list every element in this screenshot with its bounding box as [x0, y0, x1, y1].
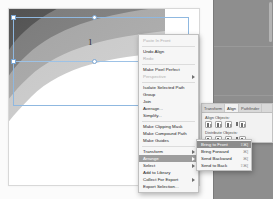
align-objects-buttons	[202, 120, 272, 128]
submenu-item-send-to-back[interactable]: Send to Back ⇧⌘[	[197, 162, 251, 169]
align-panel-tabs: Transform Align Pathfinder	[202, 104, 272, 113]
submenu-item-shortcut: ⌘]	[243, 148, 248, 155]
chevron-right-icon	[192, 150, 195, 154]
chevron-right-icon	[192, 75, 195, 79]
align-top-icon[interactable]	[239, 121, 246, 128]
chevron-right-icon	[192, 157, 195, 161]
tab-align[interactable]: Align	[225, 104, 239, 112]
menu-item-label: Make Clipping Mask	[143, 124, 183, 129]
menu-separator	[142, 64, 195, 65]
menu-item-isolate-selected-path[interactable]: Isolate Selected Path	[139, 84, 198, 91]
chevron-right-icon	[192, 178, 195, 182]
menu-item-label: Collect For Export	[143, 177, 178, 182]
arrange-submenu[interactable]: Bring to Front ⇧⌘] Bring Forward ⌘] Send…	[196, 139, 252, 171]
tab-transform[interactable]: Transform	[202, 104, 225, 112]
menu-item-label: Simplify...	[143, 113, 162, 118]
menu-item-arrange[interactable]: Arrange	[139, 155, 198, 162]
document-number-marker: 1	[88, 38, 93, 47]
selection-handle-mid-middle[interactable]	[92, 59, 97, 64]
tab-pathfinder[interactable]: Pathfinder	[239, 104, 262, 112]
panel-scrollbar[interactable]	[269, 2, 272, 42]
submenu-item-label: Bring to Front	[201, 141, 228, 148]
menu-item-export-selection[interactable]: Export Selection...	[139, 183, 198, 190]
menu-item-transform[interactable]: Transform	[139, 148, 198, 155]
align-objects-label: Align Objects:	[202, 113, 272, 120]
align-panel[interactable]: Transform Align Pathfinder Align Objects…	[201, 103, 273, 143]
selection-handle-top-left[interactable]	[11, 15, 16, 20]
submenu-item-shortcut: ⌘[	[243, 155, 248, 162]
distribute-objects-label: Distribute Objects:	[202, 128, 272, 135]
align-center-horizontal-icon[interactable]	[215, 121, 222, 128]
menu-separator	[142, 146, 195, 147]
submenu-item-send-backward[interactable]: Send Backward ⌘[	[197, 155, 251, 162]
menu-item-label: Paste In Front	[143, 38, 171, 43]
menu-item-label: Undo Align	[143, 49, 164, 54]
selection-handle-mid-left[interactable]	[11, 59, 16, 64]
menu-item-join[interactable]: Join	[139, 98, 198, 105]
menu-separator	[142, 46, 195, 47]
submenu-item-label: Bring Forward	[201, 148, 229, 155]
menu-item-make-clipping-mask[interactable]: Make Clipping Mask	[139, 123, 198, 130]
menu-item-label: Select	[143, 163, 155, 168]
align-left-icon[interactable]	[205, 121, 212, 128]
submenu-item-bring-forward[interactable]: Bring Forward ⌘]	[197, 148, 251, 155]
menu-item-label: Group	[143, 92, 155, 97]
menu-item-simplify[interactable]: Simplify...	[139, 112, 198, 119]
menu-item-label: Arrange	[143, 156, 159, 161]
menu-item-make-compound-path[interactable]: Make Compound Path	[139, 130, 198, 137]
menu-item-label: Isolate Selected Path	[143, 85, 185, 90]
menu-item-add-to-library[interactable]: Add to Library	[139, 169, 198, 176]
context-menu[interactable]: Paste In Front Undo Align Redo Make Pixe…	[138, 34, 199, 193]
submenu-item-bring-to-front[interactable]: Bring to Front ⇧⌘]	[197, 141, 251, 148]
menu-item-make-pixel-perfect[interactable]: Make Pixel Perfect	[139, 66, 198, 73]
menu-item-label: Perspective	[143, 74, 166, 79]
menu-item-collect-for-export[interactable]: Collect For Export	[139, 176, 198, 183]
menu-item-label: Join	[143, 99, 151, 104]
align-divider	[235, 121, 236, 128]
menu-item-perspective[interactable]: Perspective	[139, 73, 198, 80]
submenu-item-shortcut: ⇧⌘[	[240, 162, 248, 169]
chevron-right-icon	[192, 164, 195, 168]
illustrator-window: 1 Transform Align Pathfinder Align Objec…	[0, 0, 273, 199]
menu-item-label: Average...	[143, 106, 163, 111]
submenu-item-shortcut: ⇧⌘]	[240, 141, 248, 148]
menu-item-make-guides[interactable]: Make Guides	[139, 137, 198, 144]
submenu-item-label: Send Backward	[201, 155, 232, 162]
menu-item-label: Redo	[143, 56, 154, 61]
menu-item-label: Transform	[143, 149, 163, 154]
menu-item-undo-align[interactable]: Undo Align	[139, 48, 198, 55]
menu-item-average[interactable]: Average...	[139, 105, 198, 112]
menu-item-redo[interactable]: Redo	[139, 55, 198, 62]
align-right-icon[interactable]	[225, 121, 232, 128]
selection-handle-top-middle[interactable]	[92, 15, 97, 20]
menu-item-label: Make Guides	[143, 138, 169, 143]
menu-item-group[interactable]: Group	[139, 91, 198, 98]
dock-divider-1	[214, 46, 273, 47]
menu-item-label: Make Compound Path	[143, 131, 187, 136]
submenu-item-label: Send to Back	[201, 162, 227, 169]
menu-item-label: Make Pixel Perfect	[143, 67, 180, 72]
menu-separator	[142, 121, 195, 122]
menu-item-paste-in-front[interactable]: Paste In Front	[139, 37, 198, 44]
dock-divider-2	[214, 95, 273, 96]
menu-item-select[interactable]: Select	[139, 162, 198, 169]
menu-separator	[142, 82, 195, 83]
menu-item-label: Export Selection...	[143, 184, 179, 189]
menu-item-label: Add to Library	[143, 170, 170, 175]
